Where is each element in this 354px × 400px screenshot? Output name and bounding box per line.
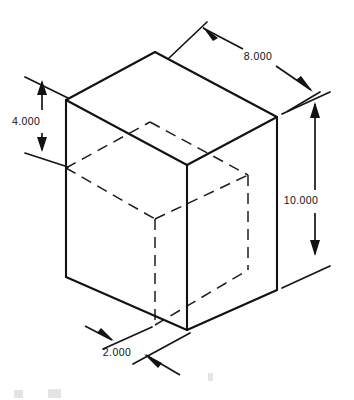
block-outline-group <box>66 52 277 330</box>
dimension-4000-group: 4.000 <box>12 77 68 167</box>
dimension-8000-group: 8.000 <box>168 22 320 111</box>
arrow-head-10000-upper <box>310 102 320 118</box>
ext-line-8000-start <box>168 22 207 59</box>
ext-line-10000-upper <box>282 92 330 114</box>
hidden-edge-mid-left-diagonal <box>66 168 155 219</box>
dimension-label-4000: 4.000 <box>12 115 40 127</box>
scan-artifacts-group <box>14 373 213 398</box>
arrow-head-8000-end <box>296 76 313 92</box>
arrow-head-4000-lower <box>37 137 47 152</box>
scan-artifact-left <box>14 390 23 398</box>
hidden-edge-top-right-diagonal <box>150 122 248 175</box>
arrow-head-10000-lower <box>310 240 320 256</box>
dim-line-8000-left <box>203 28 243 49</box>
scan-artifact-mid <box>48 389 61 398</box>
hidden-edge-top-left-diagonal <box>66 122 150 168</box>
edge-bottom-front-left <box>66 277 187 330</box>
dimension-10000-group: 10.000 <box>282 92 330 288</box>
dimension-2000-group: 2.000 <box>85 326 190 375</box>
hidden-edge-mid-right-diagonal <box>155 175 248 219</box>
arrow-head-2000-end <box>144 354 162 368</box>
edge-top-back-left <box>66 52 155 100</box>
isometric-block-drawing: 8.000 4.000 <box>0 0 354 400</box>
dimension-label-8000: 8.000 <box>244 50 272 62</box>
hidden-edge-bottom-right-diagonal <box>155 270 248 325</box>
technical-drawing-canvas: 8.000 4.000 <box>0 0 354 400</box>
hidden-edges-group <box>66 122 248 325</box>
ext-line-10000-lower <box>282 266 330 288</box>
edge-top-front-right <box>187 117 277 165</box>
edge-bottom-front-right <box>187 290 277 330</box>
arrow-head-8000-start <box>202 26 218 41</box>
dimension-label-10000: 10.000 <box>284 194 319 206</box>
ext-line-4000-lower <box>25 153 68 167</box>
scan-artifact-right <box>208 373 213 381</box>
dimension-label-2000: 2.000 <box>103 346 131 358</box>
ext-line-2000-end <box>133 333 190 364</box>
